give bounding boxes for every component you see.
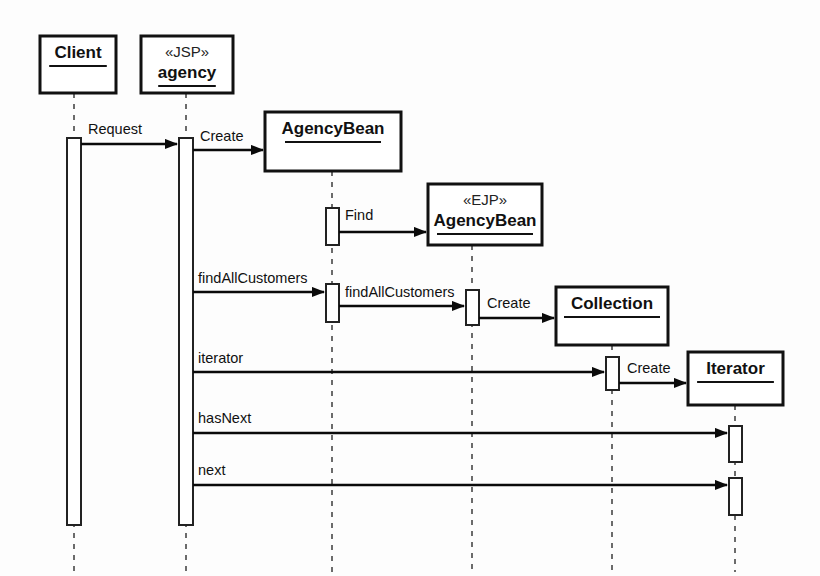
message-label-msg-findallcustomers-2: findAllCustomers: [345, 284, 455, 300]
activation-bar-iterator: [729, 478, 742, 515]
participant-name-ejp-agencybean: AgencyBean: [434, 211, 537, 230]
participant-client[interactable]: Client: [40, 36, 116, 93]
sequence-diagram-canvas: RequestCreateFindfindAllCustomersfindAll…: [0, 0, 820, 576]
message-label-msg-iterator: iterator: [198, 350, 243, 366]
activation-bar-agencybean: [326, 208, 339, 245]
message-label-msg-hasnext: hasNext: [198, 410, 251, 426]
activation-bar-agency: [179, 138, 193, 525]
participant-agencybean[interactable]: AgencyBean: [265, 112, 401, 171]
participant-name-iterator: Iterator: [706, 359, 765, 378]
participant-collection[interactable]: Collection: [556, 287, 668, 345]
participant-name-collection: Collection: [571, 294, 653, 313]
activation-bar-collection: [606, 357, 619, 390]
participant-agency[interactable]: «JSP»agency: [141, 36, 233, 93]
participant-iterator[interactable]: Iterator: [688, 352, 783, 405]
participant-boxes-group: Client«JSP»agencyAgencyBean«EJP»AgencyBe…: [40, 36, 783, 405]
message-label-msg-create-agencybean: Create: [200, 128, 244, 144]
activation-bar-iterator: [729, 426, 742, 462]
activation-bar-agencybean: [326, 284, 339, 322]
participant-stereotype-ejp-agencybean: «EJP»: [463, 191, 507, 208]
message-label-msg-next: next: [198, 462, 225, 478]
message-label-msg-request: Request: [88, 121, 142, 137]
message-label-msg-create-iterator: Create: [627, 360, 671, 376]
message-label-msg-findallcustomers-1: findAllCustomers: [198, 270, 308, 286]
participant-name-client: Client: [54, 43, 102, 62]
participant-ejp-agencybean[interactable]: «EJP»AgencyBean: [428, 184, 542, 245]
activation-bar-ejp-agencybean: [466, 290, 479, 325]
participant-name-agencybean: AgencyBean: [282, 119, 385, 138]
activation-bar-client: [67, 138, 81, 525]
participant-stereotype-agency: «JSP»: [165, 43, 209, 60]
message-label-msg-create-collection: Create: [487, 295, 531, 311]
participant-name-agency: agency: [158, 63, 217, 82]
message-label-msg-find: Find: [345, 207, 373, 223]
uml-sequence-diagram: RequestCreateFindfindAllCustomersfindAll…: [0, 0, 820, 576]
